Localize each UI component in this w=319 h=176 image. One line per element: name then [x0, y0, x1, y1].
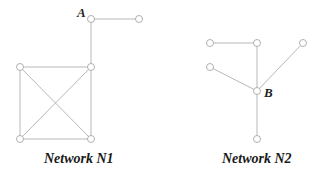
network-diagram: A Network N1 B Network N2	[0, 0, 319, 176]
edge-n2_tr-B	[257, 43, 303, 91]
node-n1_tl	[17, 64, 24, 71]
node-n2_l	[207, 64, 214, 71]
node-n1_tr	[88, 64, 95, 71]
node-A	[88, 16, 95, 23]
edge-n2_l-B	[210, 67, 257, 91]
node-n2_tr	[300, 40, 307, 47]
network-n2-caption: Network N2	[221, 151, 292, 166]
node-n2_tl	[207, 40, 214, 47]
n1-edges	[20, 19, 139, 139]
node-label-B: B	[263, 85, 273, 100]
node-n1_br	[88, 136, 95, 143]
node-n2_tm	[254, 40, 261, 47]
node-label-A: A	[76, 5, 86, 20]
node-B	[254, 88, 261, 95]
network-n1: A Network N1	[17, 5, 143, 166]
network-n2: B Network N2	[207, 40, 307, 167]
n2-node-labels: B	[263, 85, 273, 100]
n1-node-labels: A	[76, 5, 86, 20]
node-n2_b	[254, 136, 261, 143]
node-n1_right	[136, 16, 143, 23]
network-n1-caption: Network N1	[43, 151, 114, 166]
node-n1_bl	[17, 136, 24, 143]
